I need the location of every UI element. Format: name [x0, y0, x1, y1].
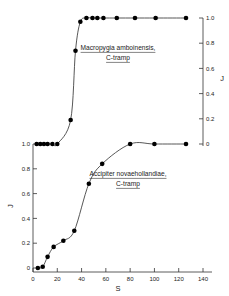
upper-annotation-line1: Macropygia amboinensis, — [81, 44, 156, 52]
data-point — [100, 162, 105, 167]
data-point — [128, 142, 133, 147]
lower-annotation-line1: Accipiter novaehollandiae, — [90, 170, 167, 178]
right-y-tick-label: 0 — [206, 141, 210, 147]
x-axis-label: S — [115, 284, 120, 293]
right-y-tick-label: 1.0 — [206, 15, 215, 21]
data-point — [152, 142, 157, 147]
x-tick-label: 60 — [103, 276, 110, 282]
data-point — [184, 16, 189, 21]
data-point — [51, 245, 56, 250]
data-point — [78, 19, 83, 24]
left-y-tick-label: 0.6 — [22, 191, 31, 197]
x-tick-label: 0 — [31, 276, 35, 282]
left-y-tick-label: 0 — [27, 265, 31, 271]
left-y-tick-label: 1.0 — [22, 141, 31, 147]
data-point — [101, 16, 106, 21]
data-point — [72, 229, 77, 234]
data-point — [87, 181, 92, 186]
data-point — [73, 48, 78, 53]
left-y-tick-label: 0.8 — [22, 166, 31, 172]
data-point — [95, 16, 100, 21]
data-point — [114, 16, 119, 21]
data-point — [55, 142, 60, 147]
right-y-tick-label: 0.4 — [206, 91, 215, 97]
x-tick-label: 80 — [127, 276, 134, 282]
right-y-tick-label: 0.8 — [206, 40, 215, 46]
data-point — [61, 238, 66, 243]
lower-annotation-line2: C-tramp — [116, 180, 140, 188]
right-y-tick-label: 0.2 — [206, 116, 215, 122]
x-tick-label: 140 — [198, 276, 209, 282]
data-point — [50, 142, 55, 147]
data-point — [184, 142, 189, 147]
left-y-axis-label: J — [6, 204, 15, 208]
right-y-tick-label: 0.6 — [206, 66, 215, 72]
figure-panel: 020406080100120140S00.20.40.60.81.0J00.2… — [0, 0, 229, 296]
series-curve-2 — [38, 143, 186, 268]
left-y-tick-label: 0.2 — [22, 240, 31, 246]
data-point — [133, 16, 138, 21]
data-point — [40, 264, 45, 269]
x-tick-label: 120 — [174, 276, 185, 282]
x-tick-label: 100 — [149, 276, 160, 282]
sigmoid-incidence-chart: 020406080100120140S00.20.40.60.81.0J00.2… — [0, 0, 229, 296]
data-point — [84, 16, 89, 21]
right-y-axis-label: J — [220, 74, 224, 83]
data-point — [68, 118, 73, 123]
x-tick-label: 40 — [78, 276, 85, 282]
data-point — [36, 266, 41, 271]
series-curve-1 — [37, 18, 186, 146]
data-point — [90, 16, 95, 21]
left-y-tick-label: 0.4 — [22, 216, 31, 222]
x-tick-label: 20 — [54, 276, 61, 282]
data-point — [45, 142, 50, 147]
data-point — [45, 255, 50, 260]
upper-annotation-line2: C-tramp — [106, 54, 130, 62]
data-point — [153, 16, 158, 21]
